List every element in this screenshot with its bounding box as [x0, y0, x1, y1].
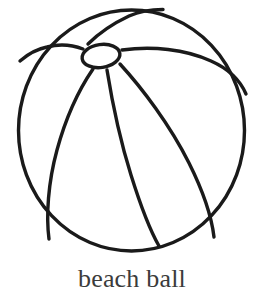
- beach-ball-icon: [0, 0, 264, 262]
- beach-ball-illustration: [0, 0, 264, 262]
- caption-label: beach ball: [0, 262, 264, 300]
- illustration-page: beach ball: [0, 0, 264, 300]
